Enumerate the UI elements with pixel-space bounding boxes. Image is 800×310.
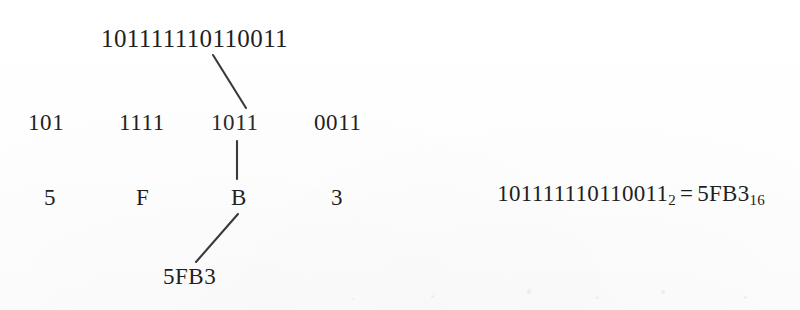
hex-digit-2: F xyxy=(136,186,149,209)
scan-speckle xyxy=(744,296,747,299)
scan-speckle xyxy=(352,298,354,300)
hex-digit-4: 3 xyxy=(331,186,343,209)
equation-binary-value: 101111110110011 xyxy=(497,181,668,206)
equation-operator: = xyxy=(676,181,697,206)
scan-speckle xyxy=(527,289,531,294)
conversion-figure: 101111110110011 101 1111 1011 0011 5 F B… xyxy=(0,0,800,310)
equation-hex-base: 16 xyxy=(750,192,765,208)
binary-group-4: 0011 xyxy=(314,111,362,134)
hex-result: 5FB3 xyxy=(163,265,216,288)
connector-hex-to-result xyxy=(196,214,238,262)
hex-digit-1: 5 xyxy=(44,186,56,209)
binary-group-1: 101 xyxy=(28,111,64,134)
connector-top-to-group xyxy=(213,55,246,108)
scan-speckle xyxy=(431,295,434,298)
top-binary-number: 101111110110011 xyxy=(101,26,288,51)
scan-speckle xyxy=(661,290,665,294)
equation-hex-value: 5FB3 xyxy=(697,181,749,206)
scan-speckle xyxy=(596,296,599,299)
binary-group-3: 1011 xyxy=(211,111,259,134)
equation-binary-base: 2 xyxy=(668,192,676,208)
hex-digit-3: B xyxy=(231,186,247,209)
conversion-equation: 1011111101100112=5FB316 xyxy=(473,159,765,231)
binary-group-2: 1111 xyxy=(119,111,165,134)
